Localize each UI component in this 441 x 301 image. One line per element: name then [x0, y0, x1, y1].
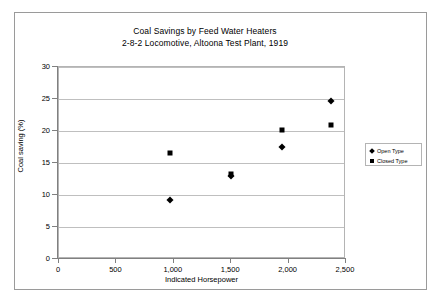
x-axis-tick-label-wrapper: 2,000: [268, 265, 308, 275]
y-axis-title-wrapper: Coal saving (%): [16, 86, 28, 206]
x-axis-title: Indicated Horsepower: [58, 275, 345, 284]
gridline-horizontal: [59, 227, 344, 228]
legend: Open Type Closed Type: [365, 143, 422, 166]
x-axis-tick: [345, 259, 346, 263]
chart-title: Coal Savings by Feed Water Heaters 2-8-2…: [60, 25, 350, 49]
data-point-closed-type: [329, 122, 334, 127]
y-axis-tick-label: 0: [26, 254, 50, 263]
legend-label-closed-type: Closed Type: [377, 157, 407, 165]
y-axis-tick: [52, 162, 57, 163]
chart-figure: Coal Savings by Feed Water Heaters 2-8-2…: [0, 0, 441, 301]
gridline-horizontal: [59, 131, 344, 132]
y-axis-tick: [52, 66, 57, 67]
chart-title-line2: 2-8-2 Locomotive, Altoona Test Plant, 19…: [60, 37, 350, 49]
x-axis-tick-label-wrapper: 0: [38, 265, 78, 275]
y-axis-tick-label: 5: [26, 222, 50, 231]
x-axis-tick-label-wrapper: 1,500: [210, 265, 250, 275]
x-axis-tick-label: 0: [38, 265, 78, 274]
x-axis-tick-label: 500: [95, 265, 135, 274]
y-axis-tick: [52, 98, 57, 99]
x-axis-tick: [115, 259, 116, 263]
legend-item-open-type: Open Type: [370, 147, 421, 155]
x-axis-tick-label-wrapper: 2,500: [325, 265, 365, 275]
gridline-horizontal: [59, 163, 344, 164]
chart-title-line1: Coal Savings by Feed Water Heaters: [133, 26, 276, 36]
x-axis-tick-label-wrapper: 500: [95, 265, 135, 275]
x-axis-tick-label-wrapper: 1,000: [153, 265, 193, 275]
y-axis-tick: [52, 226, 57, 227]
y-axis-tick-label: 10: [26, 190, 50, 199]
x-axis-line: [57, 258, 346, 259]
x-axis-tick-label: 2,000: [268, 265, 308, 274]
y-axis-line: [57, 66, 58, 259]
y-axis-tick-label: 15: [26, 158, 50, 167]
y-axis-tick-label: 20: [26, 126, 50, 135]
x-axis-tick: [230, 259, 231, 263]
gridline-horizontal: [59, 67, 344, 68]
gridline-horizontal: [59, 99, 344, 100]
data-point-closed-type: [279, 128, 284, 133]
x-axis-tick-label: 2,500: [325, 265, 365, 274]
y-axis-tick: [52, 258, 57, 259]
legend-marker-diamond-icon: [369, 148, 375, 154]
y-axis-tick-label: 25: [26, 94, 50, 103]
x-axis-tick-label: 1,500: [210, 265, 250, 274]
data-point-closed-type: [167, 151, 172, 156]
x-axis-tick: [58, 259, 59, 263]
y-axis-tick: [52, 130, 57, 131]
legend-label-open-type: Open Type: [377, 147, 404, 155]
gridline-horizontal: [59, 195, 344, 196]
plot-area: [58, 66, 345, 258]
y-axis-tick-label: 30: [26, 62, 50, 71]
x-axis-tick-label: 1,000: [153, 265, 193, 274]
x-axis-tick: [173, 259, 174, 263]
legend-marker-square-icon: [370, 159, 374, 163]
y-axis-title: Coal saving (%): [16, 86, 25, 206]
data-point-closed-type: [229, 171, 234, 176]
x-axis-tick: [288, 259, 289, 263]
y-axis-tick: [52, 194, 57, 195]
legend-item-closed-type: Closed Type: [370, 157, 421, 165]
